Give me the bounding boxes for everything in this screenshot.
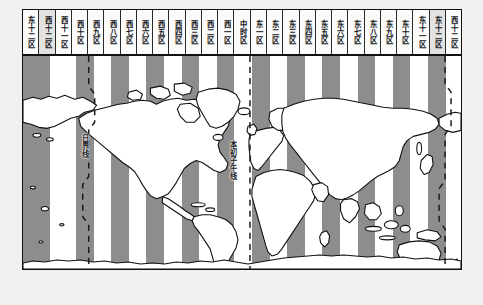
timezone-header-cell[interactable]: 东九区 bbox=[381, 10, 397, 54]
timezone-header-row: 东十二区西十二区西十一区西十区西九区西八区西七区西六区西五区西四区西三区西二区西… bbox=[22, 9, 462, 55]
timezone-header-cell[interactable]: 西十二区 bbox=[39, 10, 55, 54]
date-line-west-path bbox=[83, 56, 95, 269]
timezone-header-label: 西三区 bbox=[189, 20, 197, 44]
timezone-header-label: 东四区 bbox=[303, 20, 311, 44]
timezone-header-label: 西十二区 bbox=[43, 16, 51, 48]
timezone-header-label: 西十二区 bbox=[450, 16, 458, 48]
timezone-header-label: 西二区 bbox=[206, 20, 214, 44]
timezone-header-label: 东十一区 bbox=[417, 16, 425, 48]
timezone-header-cell[interactable]: 西五区 bbox=[153, 10, 169, 54]
timezone-header-label: 东八区 bbox=[368, 20, 376, 44]
timezone-header-cell[interactable]: 东十区 bbox=[397, 10, 413, 54]
timezone-header-label: 西九区 bbox=[92, 20, 100, 44]
timezone-header-label: 东十区 bbox=[401, 20, 409, 44]
timezone-header-label: 西十区 bbox=[75, 20, 83, 44]
map-frame: 日界线 本初子午线 bbox=[22, 55, 462, 270]
timezone-header-cell[interactable]: 西八区 bbox=[104, 10, 120, 54]
prime-meridian-annotation: 本初子午线 bbox=[228, 140, 236, 180]
timezone-header-label: 东十二区 bbox=[433, 16, 441, 48]
timezone-header-cell[interactable]: 西一区 bbox=[218, 10, 234, 54]
timezone-header-cell[interactable]: 东四区 bbox=[300, 10, 316, 54]
timezone-header-label: 东七区 bbox=[352, 20, 360, 44]
timezone-header-cell[interactable]: 西十一区 bbox=[56, 10, 72, 54]
timezone-header-label: 东二区 bbox=[271, 20, 279, 44]
timezone-header-cell[interactable]: 西十二区 bbox=[446, 10, 461, 54]
timezone-header-label: 西七区 bbox=[124, 20, 132, 44]
reference-line-layer bbox=[23, 56, 461, 269]
timezone-header-cell[interactable]: 东二区 bbox=[267, 10, 283, 54]
timezone-header-cell[interactable]: 东三区 bbox=[283, 10, 299, 54]
timezone-header-label: 东三区 bbox=[287, 20, 295, 44]
timezone-header-cell[interactable]: 东八区 bbox=[365, 10, 381, 54]
timezone-header-cell[interactable]: 西三区 bbox=[186, 10, 202, 54]
world-timezone-figure: 东十二区西十二区西十一区西十区西九区西八区西七区西六区西五区西四区西三区西二区西… bbox=[22, 9, 462, 291]
timezone-header-label: 西一区 bbox=[222, 20, 230, 44]
timezone-header-cell[interactable]: 中时区 bbox=[234, 10, 250, 54]
timezone-header-cell[interactable]: 西六区 bbox=[137, 10, 153, 54]
timezone-header-cell[interactable]: 西七区 bbox=[121, 10, 137, 54]
timezone-header-label: 东六区 bbox=[336, 20, 344, 44]
timezone-header-cell[interactable]: 西九区 bbox=[88, 10, 104, 54]
timezone-header-label: 西六区 bbox=[141, 20, 149, 44]
timezone-header-cell[interactable]: 东七区 bbox=[348, 10, 364, 54]
timezone-header-label: 东九区 bbox=[385, 20, 393, 44]
timezone-header-label: 东五区 bbox=[319, 20, 327, 44]
map-canvas: 日界线 本初子午线 bbox=[23, 56, 461, 269]
date-line-annotation: 日界线 bbox=[80, 134, 88, 158]
timezone-header-cell[interactable]: 西四区 bbox=[169, 10, 185, 54]
date-line-east-path bbox=[439, 56, 451, 269]
timezone-header-cell[interactable]: 东五区 bbox=[316, 10, 332, 54]
timezone-header-cell[interactable]: 东十一区 bbox=[413, 10, 429, 54]
timezone-header-label: 东一区 bbox=[254, 20, 262, 44]
timezone-header-cell[interactable]: 西十区 bbox=[72, 10, 88, 54]
timezone-header-label: 东十二区 bbox=[27, 16, 35, 48]
timezone-header-label: 西十一区 bbox=[59, 16, 67, 48]
timezone-header-label: 西五区 bbox=[157, 20, 165, 44]
timezone-header-label: 中时区 bbox=[238, 20, 246, 44]
timezone-header-label: 西四区 bbox=[173, 20, 181, 44]
timezone-header-cell[interactable]: 东六区 bbox=[332, 10, 348, 54]
timezone-header-label: 西八区 bbox=[108, 20, 116, 44]
timezone-header-cell[interactable]: 东十二区 bbox=[430, 10, 446, 54]
timezone-header-cell[interactable]: 东一区 bbox=[251, 10, 267, 54]
timezone-header-cell[interactable]: 东十二区 bbox=[23, 10, 39, 54]
timezone-header-cell[interactable]: 西二区 bbox=[202, 10, 218, 54]
